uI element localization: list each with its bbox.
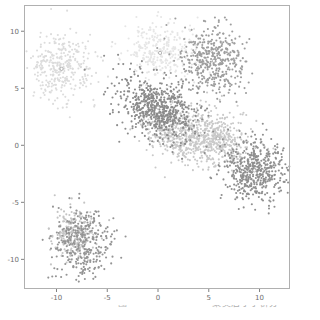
data-point [263,181,265,183]
data-point [187,124,189,126]
data-point [165,126,167,128]
data-point [145,61,147,63]
data-point [84,243,86,245]
data-point [69,203,71,205]
data-point [135,126,137,128]
data-point [183,56,185,58]
data-point [77,43,79,45]
data-point [169,114,171,116]
data-point [231,188,233,190]
data-point [264,167,266,169]
data-point [242,173,244,175]
data-point [148,59,150,61]
data-point [154,50,156,52]
data-point [174,36,176,38]
data-point [203,139,205,141]
data-point [228,144,230,146]
data-point [223,51,225,53]
data-point [127,96,129,98]
data-point [63,237,65,239]
data-point [135,123,137,125]
data-point [118,111,120,113]
data-point [189,71,191,73]
data-point [183,68,185,70]
data-point [172,129,174,131]
data-point [219,99,221,101]
data-point [205,101,207,103]
data-point [48,83,50,85]
data-point [219,165,221,167]
data-point [192,85,194,87]
data-point [203,77,205,79]
data-point [45,75,47,77]
data-point [116,90,118,92]
data-point [59,56,61,58]
data-point [154,33,156,35]
data-point [234,93,236,95]
data-point [247,158,249,160]
data-point [154,166,156,168]
data-point [79,220,81,222]
data-point [263,147,265,149]
data-point [171,83,173,85]
data-point [182,111,184,113]
data-point [222,41,224,43]
data-point [248,167,250,169]
data-point [167,134,169,136]
data-point [144,52,146,54]
data-point [89,252,91,254]
data-point [160,127,162,129]
data-point [194,159,196,161]
data-point [217,169,219,171]
data-point [268,170,270,172]
data-point [81,273,83,275]
data-point [86,219,88,221]
data-point [137,104,139,106]
data-point [50,248,52,250]
data-point [105,249,107,251]
data-point [195,44,197,46]
data-point [93,253,95,255]
data-point [154,36,156,38]
data-point [180,142,182,144]
data-point [179,51,181,53]
data-point [78,232,80,234]
data-point [207,61,209,63]
data-point [42,56,44,58]
data-point [221,48,223,50]
data-point [262,123,264,125]
data-point [133,106,135,108]
data-point [85,48,87,50]
data-point [123,94,125,96]
data-point [250,135,252,137]
x-tick-label: -10 [51,294,62,302]
data-point [225,37,227,39]
data-point [191,52,193,54]
data-point [216,98,218,100]
data-point [73,243,75,245]
data-point [249,176,251,178]
data-point [223,129,225,131]
data-point [173,88,175,90]
data-point [184,41,186,43]
data-point [190,152,192,154]
data-point [239,130,241,132]
data-point [61,268,63,270]
data-point [112,109,114,111]
data-point [116,229,118,231]
data-point [71,243,73,245]
data-point [152,22,154,24]
data-point [215,72,217,74]
data-point [185,153,187,155]
data-point [221,45,223,47]
data-point [32,95,34,97]
x-tick-label: 0 [156,294,160,302]
data-point [219,145,221,147]
data-point [87,68,89,70]
data-point [220,121,222,123]
data-point [50,68,52,70]
data-point [268,155,270,157]
data-point [198,135,200,137]
data-point [89,34,91,36]
data-point [162,118,164,120]
